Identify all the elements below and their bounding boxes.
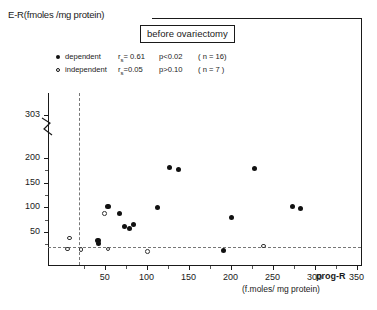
open-circle-marker-icon <box>56 68 60 72</box>
x-tick <box>105 266 106 270</box>
right-border-rule <box>361 18 362 266</box>
r-value: = 0.61 <box>124 52 145 61</box>
data-point-dependent <box>229 215 234 220</box>
data-point-dependent <box>117 211 122 216</box>
vertical-threshold-line <box>79 93 80 265</box>
data-point-independent <box>261 244 266 249</box>
data-point-dependent <box>221 248 226 253</box>
x-tick <box>147 266 148 270</box>
chart-title-box: before ovariectomy <box>140 25 235 43</box>
y-tick <box>44 115 48 116</box>
x-tick-label: 350 <box>342 272 372 282</box>
x-tick-label: 50 <box>90 272 120 282</box>
x-tick <box>315 266 316 270</box>
legend-correlation: rs=0.05 <box>118 64 143 79</box>
data-point-independent <box>67 236 72 241</box>
data-point-dependent <box>105 204 110 209</box>
y-tick <box>44 183 48 184</box>
x-tick <box>189 266 190 270</box>
y-axis-title: E-R(fmoles /mg protein) <box>8 9 104 20</box>
x-tick <box>273 266 274 270</box>
y-tick-label: 303 <box>10 109 40 119</box>
legend-label: dependent <box>65 51 101 64</box>
x-tick-label: 250 <box>258 272 288 282</box>
data-point-independent <box>145 249 150 254</box>
axis-break-icon <box>41 117 55 137</box>
x-tick <box>357 266 358 270</box>
filled-circle-marker-icon <box>56 55 60 59</box>
data-point-dependent <box>96 241 101 246</box>
y-tick-minor <box>45 170 48 171</box>
y-tick-label: 150 <box>10 177 40 187</box>
y-tick-minor <box>45 244 48 245</box>
y-tick <box>44 232 48 233</box>
r-value: =0.05 <box>124 65 143 74</box>
legend-count: ( n = 7 ) <box>198 64 224 77</box>
x-axis-name: prog-R <box>316 271 346 281</box>
top-border-rule <box>152 18 362 19</box>
y-tick <box>44 207 48 208</box>
horizontal-threshold-line <box>48 247 361 248</box>
y-tick-minor <box>45 195 48 196</box>
legend-count: ( n = 16) <box>198 51 227 64</box>
data-point-dependent <box>298 206 303 211</box>
y-tick-minor <box>45 220 48 221</box>
x-tick-label: 150 <box>174 272 204 282</box>
x-axis-unit: (f.moles/ mg protein) <box>242 284 320 294</box>
data-point-dependent <box>155 205 160 210</box>
x-tick-minor <box>252 266 253 269</box>
data-point-independent <box>106 247 111 252</box>
x-tick-minor <box>336 266 337 269</box>
data-point-dependent <box>252 166 257 171</box>
legend-label: independent <box>65 64 107 77</box>
x-tick-minor <box>168 266 169 269</box>
y-tick-label: 100 <box>10 201 40 211</box>
data-point-independent <box>79 247 84 252</box>
x-tick-minor <box>210 266 211 269</box>
legend-pvalue: p>0.10 <box>159 64 182 77</box>
scatter-plot-figure: E-R(fmoles /mg protein) before ovariecto… <box>0 0 377 310</box>
x-tick-minor <box>294 266 295 269</box>
x-tick <box>231 266 232 270</box>
data-point-independent <box>65 247 70 252</box>
y-tick-label: 200 <box>10 152 40 162</box>
x-tick-minor <box>126 266 127 269</box>
y-tick-label: 50 <box>10 226 40 236</box>
y-tick <box>44 158 48 159</box>
data-point-dependent <box>176 167 181 172</box>
legend-pvalue: p<0.02 <box>159 51 182 64</box>
data-point-dependent <box>290 204 295 209</box>
data-point-dependent <box>167 165 172 170</box>
x-tick-minor <box>84 266 85 269</box>
x-tick-label: 100 <box>132 272 162 282</box>
data-point-independent <box>102 211 107 216</box>
x-tick-label: 200 <box>216 272 246 282</box>
